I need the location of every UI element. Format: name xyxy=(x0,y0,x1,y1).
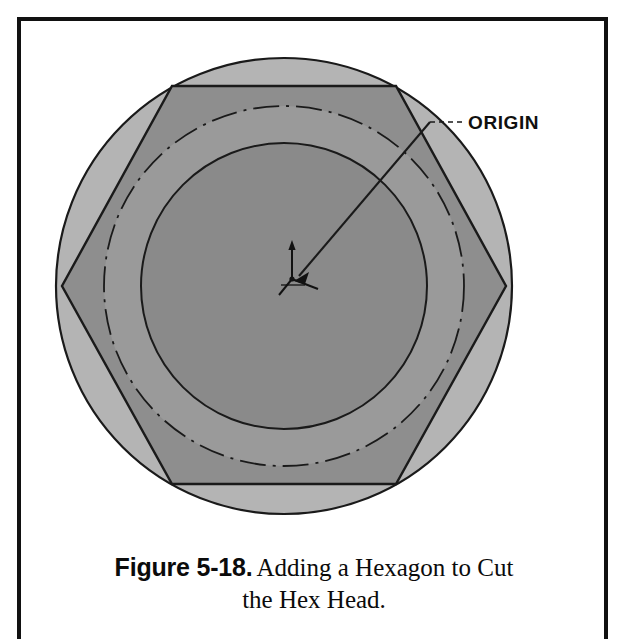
figure-caption-label: Figure 5-18. xyxy=(115,553,253,581)
hex-head-diagram: ORIGIN xyxy=(0,0,625,639)
figure-caption-line2: the Hex Head. xyxy=(40,585,588,615)
figure-caption-text: Adding a Hexagon to Cut xyxy=(257,554,514,581)
figure-caption: Figure 5-18. Adding a Hexagon to Cut the… xyxy=(40,553,588,614)
figure-page: ORIGIN Figure 5-18. Adding a Hexagon to … xyxy=(0,0,625,639)
inner-circle-shape xyxy=(141,143,427,429)
origin-label: ORIGIN xyxy=(468,112,539,133)
